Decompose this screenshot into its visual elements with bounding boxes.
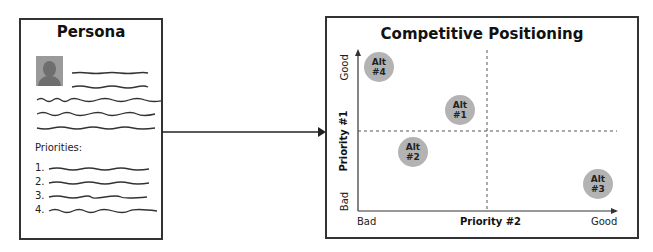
- alt-1-marker: Alt#1: [445, 95, 475, 125]
- y-axis-low-label: Bad: [339, 192, 350, 212]
- x-axis-title: Priority #2: [460, 216, 521, 227]
- alt-3-marker: Alt#3: [583, 169, 613, 199]
- x-axis-low-label: Bad: [357, 216, 376, 227]
- y-axis-high-label: Good: [339, 57, 350, 81]
- positioning-axes: [0, 0, 653, 252]
- alt-2-marker: Alt#2: [398, 137, 428, 167]
- alt-4-marker: Alt#4: [364, 52, 394, 82]
- x-axis-high-label: Good: [591, 216, 617, 227]
- y-axis-title: Priority #1: [338, 112, 349, 172]
